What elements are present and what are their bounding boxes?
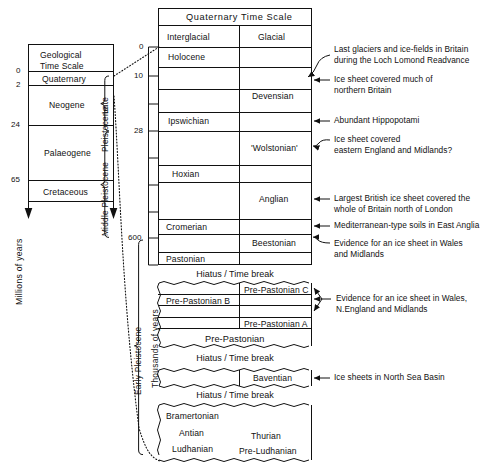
annotation-devensian-line2: northern Britain — [334, 85, 392, 96]
cell-anglian: Anglian — [259, 194, 288, 204]
col-head-glacial: Glacial — [258, 32, 285, 42]
row-divider-3 — [158, 112, 312, 113]
geo-heading-line1: Geological — [40, 50, 82, 60]
annotation-ipswichian: Abundant Hippopotami — [334, 115, 419, 126]
annotation-anglian-line1: Largest British ice sheet covered the — [334, 193, 470, 204]
cell-pre-pastonian-a: Pre-Pastonian A — [244, 319, 308, 329]
cell-pre-ludhanian: Pre-Ludhanian — [239, 446, 297, 456]
geo-tick-24: 24 — [11, 120, 20, 129]
row-divider-8 — [158, 234, 312, 235]
cell-wolstonian: 'Wolstonian' — [251, 143, 298, 153]
prepast-right-edge — [311, 283, 312, 346]
prepast-column-split — [239, 283, 240, 328]
cell-thurian: Thurian — [251, 431, 281, 441]
hiatus-label-3: Hiatus / Time break — [158, 390, 312, 400]
row-divider-2 — [158, 89, 312, 90]
annotation-cromerian: Mediterranean-type soils in East Anglia — [334, 220, 479, 231]
cell-pre-pastonian-b: Pre-Pastonian B — [166, 296, 230, 306]
row-divider-4 — [158, 131, 312, 132]
quat-tick-0: 0 — [139, 42, 143, 51]
annotation-loch-lomond-line1: Last glaciers and ice-fields in Britain — [334, 44, 468, 55]
geo-tick-65: 65 — [11, 175, 20, 184]
prepast-div-3 — [158, 317, 312, 318]
geo-period-cretaceous: Cretaceous — [43, 187, 88, 197]
annotation-pre-pastonian-line1: Evidence for an ice sheet in Wales, — [336, 293, 467, 304]
epoch-label-pleistocene: Pleistocene — [101, 106, 111, 152]
cell-cromerian: Cromerian — [166, 222, 207, 232]
geo-period-quaternary: Quaternary — [42, 74, 86, 84]
table-colhead-divider — [158, 47, 312, 48]
geo-tick-2: 2 — [16, 80, 20, 89]
row-divider-6 — [158, 182, 312, 183]
cell-hoxian: Hoxian — [172, 169, 199, 179]
cell-baventian: Baventian — [253, 373, 292, 383]
cell-beestonian: Beestonian — [252, 238, 296, 248]
quat-tick-10: 10 — [134, 71, 143, 80]
geo-period-palaeogene: Palaeogene — [44, 148, 91, 158]
epoch-label-early-pleistocene: Early Pleistocene — [134, 327, 144, 395]
annotation-baventian: Ice sheets in North Sea Basin — [334, 372, 445, 383]
annotation-pre-pastonian-line2: N.England and Midlands — [336, 304, 428, 315]
annotation-wolstonian-line1: Ice sheet covered — [334, 134, 400, 145]
annotation-loch-lomond-line2: during the Loch Lomond Readvance — [334, 55, 469, 66]
hiatus-label-1: Hiatus / Time break — [158, 269, 312, 279]
row-divider-1 — [158, 67, 312, 68]
row-divider-9 — [158, 252, 312, 253]
cell-ipswichian: Ipswichian — [168, 116, 209, 126]
cell-devensian: Devensian — [252, 91, 294, 101]
table-column-split — [239, 25, 240, 265]
axis-label-thousands-of-years: Thousands of years — [150, 309, 160, 388]
cell-antian: Antian — [179, 428, 204, 438]
cell-holocene: Holocene — [168, 52, 205, 62]
baventian-column-split — [239, 370, 240, 386]
annotation-devensian-line1: Ice sheet covered much of — [334, 74, 433, 85]
annotation-beestonian-line1: Evidence for an ice sheet in Wales — [334, 238, 463, 249]
annotation-wolstonian-line2: eastern England and Midlands? — [334, 145, 452, 156]
geo-tick-0: 0 — [16, 66, 20, 75]
quat-tick-600: 600 — [128, 233, 141, 242]
cell-ludhanian: Ludhanian — [172, 444, 213, 454]
annotation-anglian-line2: whole of Britain north of London — [334, 204, 453, 215]
cell-pre-pastonian-full: Pre-Pastonian — [205, 334, 265, 344]
cell-bramertonian: Bramertonian — [166, 411, 219, 421]
baventian-right-edge — [311, 370, 312, 386]
axis-label-millions-of-years: Millions of years — [14, 238, 24, 305]
geo-period-neogene: Neogene — [49, 100, 85, 110]
hiatus-label-2: Hiatus / Time break — [158, 353, 312, 363]
quaternary-time-scale-figure: Geological Time Scale Quaternary Neogene… — [0, 0, 501, 465]
row-divider-5 — [158, 165, 312, 166]
geo-heading-line2: Time Scale — [40, 61, 84, 71]
annotation-beestonian-line2: and Midlands — [334, 249, 384, 260]
geo-divider-quaternary-bottom — [28, 85, 114, 86]
table-title-divider — [158, 25, 312, 26]
quat-tick-28: 28 — [134, 126, 143, 135]
main-table-title: Quaternary Time Scale — [186, 12, 293, 22]
col-head-interglacial: Interglacial — [167, 32, 210, 42]
epoch-label-middle-pleistocene: Middle Pleistocene — [101, 162, 111, 236]
cell-pre-pastonian-c: Pre-Pastonian C — [244, 285, 309, 295]
row-divider-7 — [158, 219, 312, 220]
geo-divider-quaternary-top — [28, 71, 114, 72]
bottom-block-right-edge — [311, 405, 312, 460]
cell-pastonian: Pastonian — [166, 254, 205, 264]
